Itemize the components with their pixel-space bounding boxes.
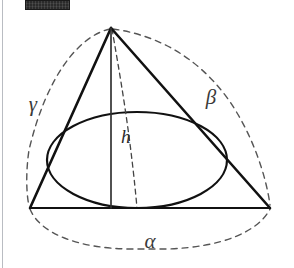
hidden-slant-dashed-path [112,29,137,208]
label-beta: β [205,85,217,109]
triangle-left-slant [30,28,111,208]
inscribed-ellipse [47,112,227,208]
label-gamma: γ [29,92,38,116]
figure-canvas: γ β α h [0,0,294,268]
label-height-h: h [121,126,131,147]
geometry-diagram: γ β α h [0,0,294,268]
label-alpha: α [144,229,156,253]
